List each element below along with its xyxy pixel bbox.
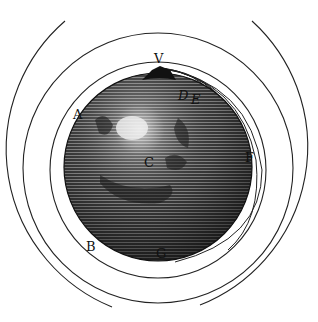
label-c: C	[144, 155, 154, 170]
label-v: V	[153, 51, 164, 66]
label-f: F	[245, 150, 254, 165]
label-a: A	[72, 107, 83, 122]
label-b: B	[86, 239, 96, 254]
globe-highlight	[116, 116, 148, 140]
mountain-peak	[142, 66, 176, 80]
earth-globe	[64, 66, 252, 261]
label-d: D	[177, 88, 189, 103]
label-g: G	[156, 246, 166, 261]
orbit-diagram: V D E F A B C G	[0, 0, 318, 322]
label-e: E	[190, 92, 201, 107]
